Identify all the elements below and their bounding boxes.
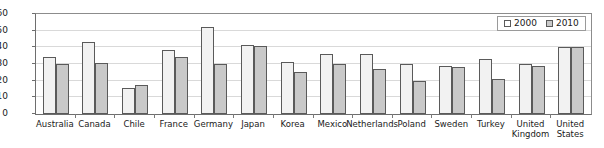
x-axis-category-separator	[511, 114, 512, 118]
bar-group	[439, 14, 465, 114]
bar-2010	[532, 66, 545, 114]
y-axis-tick-label: 0	[0, 109, 8, 118]
legend-item-2010: 2010	[546, 19, 579, 28]
y-axis-tick-label: 10	[0, 92, 8, 101]
bar-group	[43, 14, 69, 114]
gridline	[36, 96, 591, 97]
bar-2010	[95, 63, 108, 114]
x-axis-category-separator	[392, 114, 393, 118]
x-axis-category-separator	[431, 114, 432, 118]
bar-group	[122, 14, 148, 114]
x-axis-category-separator	[471, 114, 472, 118]
bar-2000	[400, 64, 413, 114]
bar-2010	[56, 64, 69, 114]
bar-group	[360, 14, 386, 114]
bar-2000	[241, 45, 254, 114]
bar-chart: 0102030405060 AustraliaCanadaChileFrance…	[0, 0, 604, 148]
bar-2000	[43, 57, 56, 115]
y-axis-tick-label: 40	[0, 42, 8, 51]
swatch-unfilled-icon	[504, 20, 511, 27]
bar-2010	[571, 47, 584, 114]
bar-2010	[413, 81, 426, 114]
y-axis-tick-label: 30	[0, 59, 8, 68]
x-axis-category-separator	[114, 114, 115, 118]
gridline	[36, 46, 591, 47]
bar-group	[162, 14, 188, 114]
bar-2000	[439, 66, 452, 114]
bar-2010	[492, 79, 505, 114]
y-axis-tick-label: 60	[0, 9, 8, 18]
bar-2010	[135, 85, 148, 114]
bar-group	[320, 14, 346, 114]
bar-2010	[175, 57, 188, 115]
bar-group	[400, 14, 426, 114]
x-axis-category-separator	[313, 114, 314, 118]
bar-2000	[281, 62, 294, 114]
y-axis-tick-label: 50	[0, 26, 8, 35]
y-axis-tick-label: 20	[0, 76, 8, 85]
x-axis-category-separator	[352, 114, 353, 118]
x-axis-tick-label: United States	[544, 119, 596, 139]
bar-group	[201, 14, 227, 114]
bar-2000	[320, 54, 333, 114]
gridline	[36, 63, 591, 64]
bar-group	[241, 14, 267, 114]
bar-2000	[201, 27, 214, 114]
chart-legend: 20002010	[497, 16, 586, 31]
bar-2010	[214, 64, 227, 114]
bar-group	[281, 14, 307, 114]
bar-2000	[360, 54, 373, 114]
bar-2000	[558, 47, 571, 114]
legend-label: 2010	[556, 19, 579, 28]
swatch-gray-icon	[546, 20, 553, 27]
bar-2010	[452, 67, 465, 114]
bar-2000	[82, 42, 95, 115]
bar-2010	[254, 46, 267, 114]
x-axis-category-separator	[233, 114, 234, 118]
bar-group	[82, 14, 108, 114]
bar-2010	[373, 69, 386, 114]
bar-2010	[333, 64, 346, 114]
legend-item-2000: 2000	[504, 19, 537, 28]
bar-2000	[162, 50, 175, 114]
gridline	[36, 80, 591, 81]
x-axis-category-separator	[273, 114, 274, 118]
bar-2010	[294, 72, 307, 114]
bar-2000	[479, 59, 492, 114]
x-axis-category-separator	[194, 114, 195, 118]
bar-2000	[122, 88, 135, 114]
x-axis-category-separator	[154, 114, 155, 118]
legend-label: 2000	[514, 19, 537, 28]
x-axis-category-separator	[550, 114, 551, 118]
x-axis-category-separator	[75, 114, 76, 118]
bar-2000	[519, 64, 532, 114]
